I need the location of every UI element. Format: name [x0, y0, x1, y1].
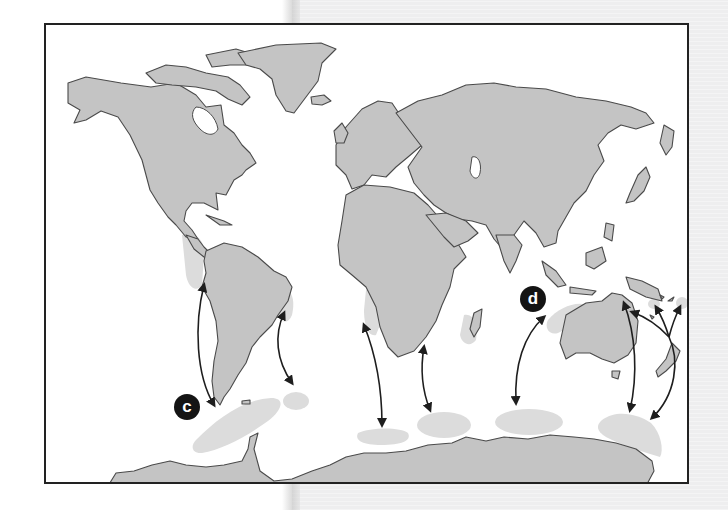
label-c-badge: c: [174, 394, 200, 420]
arrow-western-australia-to-antarctic: [516, 317, 544, 403]
land-tasmania: [612, 371, 620, 379]
land-iceland: [311, 95, 331, 105]
label-d-badge: d: [520, 286, 546, 312]
land-india: [496, 235, 522, 273]
land-sumatra: [542, 261, 566, 287]
breeding-area-pacific-island-2: [676, 297, 688, 309]
feeding-area-south-of-australia: [495, 409, 563, 435]
land-falkland-islands: [242, 400, 250, 404]
feeding-area-antarctic-peninsula: [193, 398, 281, 453]
land-south-america: [202, 243, 292, 405]
land-philippines: [604, 223, 614, 241]
land-indonesia-small: [570, 287, 596, 295]
land-australia: [560, 293, 638, 363]
land-japan: [626, 167, 650, 203]
land-borneo: [586, 247, 606, 269]
map-svg: [46, 25, 689, 484]
land-kamchatka: [660, 125, 674, 155]
arrow-east-africa-to-antarctic: [422, 347, 430, 410]
landmasses: [68, 43, 680, 484]
arrow-west-africa-to-antarctic: [364, 325, 382, 425]
feeding-area-south-georgia: [283, 392, 309, 410]
land-new-guinea: [626, 277, 662, 301]
arrow-brazil-to-south-georgia: [278, 313, 292, 383]
feeding-area-indian-ocean-antarctic: [417, 412, 471, 438]
feeding-area-south-atlantic-antarctic: [357, 429, 409, 446]
land-madagascar: [470, 309, 482, 337]
land-new-zealand: [656, 343, 680, 377]
world-map: c d: [44, 23, 689, 484]
arrow-pacific-branch-3: [669, 307, 680, 337]
arrow-pacific-branch-2: [656, 307, 669, 337]
land-caribbean-islands: [206, 215, 232, 225]
land-north-america: [68, 77, 256, 239]
